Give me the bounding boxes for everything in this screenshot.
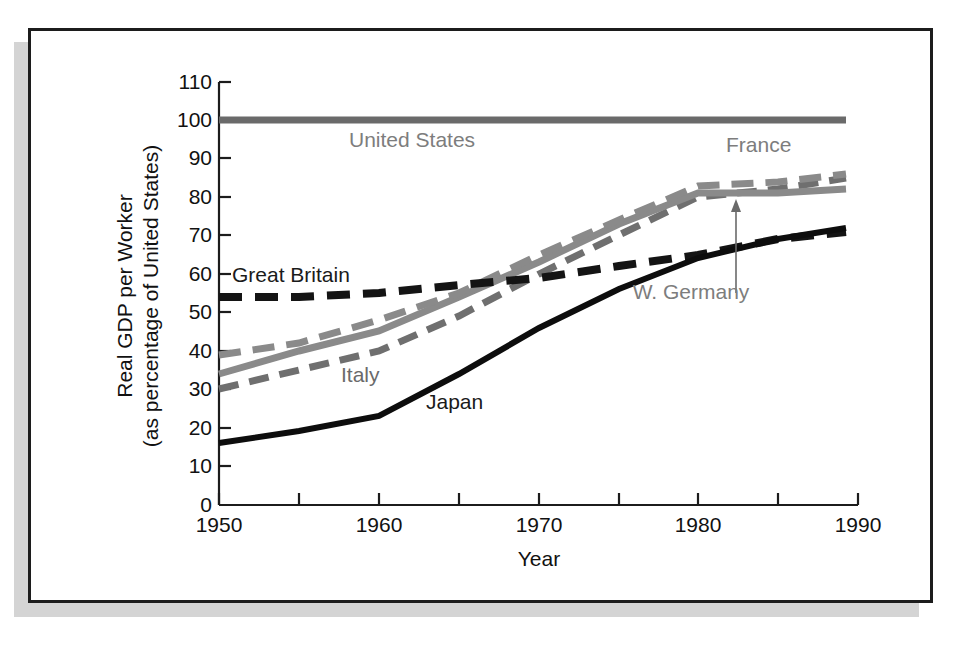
y-ticklabel-100: 100 <box>177 108 212 131</box>
series-line-japan <box>219 228 846 443</box>
annotation-w-germany: W. Germany <box>633 280 750 303</box>
x-ticklabel-1960: 1960 <box>356 513 403 536</box>
y-ticklabel-80: 80 <box>189 185 212 208</box>
y-ticklabel-50: 50 <box>189 300 212 323</box>
y-ticklabel-40: 40 <box>189 339 212 362</box>
series-japan <box>219 228 846 443</box>
x-axis-title: Year <box>518 547 560 570</box>
chart-plot-area: 110 100 90 80 70 60 50 40 30 20 10 0 <box>31 31 930 600</box>
y-axis-title-line1: Real GDP per Worker <box>113 194 136 397</box>
y-ticklabel-110: 110 <box>179 70 212 93</box>
w-germany-arrow-head <box>731 199 741 212</box>
x-axis: 1950 1960 1970 1980 1990 <box>196 493 882 536</box>
annotation-italy: Italy <box>341 363 380 386</box>
y-ticklabel-60: 60 <box>189 262 212 285</box>
annotation-japan: Japan <box>426 390 483 413</box>
x-ticklabel-1950: 1950 <box>196 513 243 536</box>
y-ticklabel-70: 70 <box>189 223 212 246</box>
annotation-united-states: United States <box>349 128 475 151</box>
x-ticklabel-1970: 1970 <box>516 513 563 536</box>
x-ticklabel-1990: 1990 <box>835 513 882 536</box>
y-ticklabel-90: 90 <box>189 146 212 169</box>
y-axis-title-line2: (as percentage of United States) <box>139 145 162 447</box>
y-ticklabel-30: 30 <box>189 377 212 400</box>
y-ticklabel-10: 10 <box>189 454 212 477</box>
x-ticklabel-1980: 1980 <box>675 513 722 536</box>
annotation-great-britain: Great Britain <box>232 263 350 286</box>
y-ticklabel-20: 20 <box>189 416 212 439</box>
chart-frame: 110 100 90 80 70 60 50 40 30 20 10 0 <box>28 28 933 603</box>
figure-container: 110 100 90 80 70 60 50 40 30 20 10 0 <box>0 0 969 645</box>
annotation-france: France <box>726 133 791 156</box>
